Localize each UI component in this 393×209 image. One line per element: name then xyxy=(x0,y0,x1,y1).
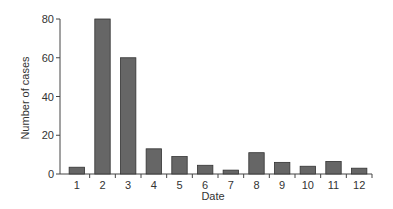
x-tick-label: 3 xyxy=(125,179,131,191)
bar xyxy=(300,166,315,174)
bar xyxy=(197,165,212,174)
x-tick-label: 8 xyxy=(253,179,259,191)
y-tick-label: 20 xyxy=(42,129,54,141)
bar xyxy=(223,170,238,174)
bar xyxy=(172,157,187,174)
bar xyxy=(249,153,264,174)
x-tick-label: 12 xyxy=(353,179,365,191)
y-axis-label: Number of cases xyxy=(19,56,31,140)
y-tick-label: 0 xyxy=(48,168,54,180)
bar xyxy=(351,168,366,174)
bar xyxy=(274,162,289,174)
x-tick-label: 10 xyxy=(302,179,314,191)
bar xyxy=(120,58,135,174)
x-tick-label: 1 xyxy=(74,179,80,191)
x-tick-label: 7 xyxy=(228,179,234,191)
bar xyxy=(69,167,84,174)
y-tick-label: 80 xyxy=(42,13,54,25)
bar xyxy=(146,149,161,174)
x-tick-label: 2 xyxy=(99,179,105,191)
y-tick-label: 40 xyxy=(42,91,54,103)
x-tick-label: 11 xyxy=(328,179,339,191)
x-tick-label: 9 xyxy=(279,179,285,191)
y-tick-label: 60 xyxy=(42,52,54,64)
plot-area: 020406080123456789101112 xyxy=(42,13,372,191)
bar xyxy=(326,161,341,174)
x-tick-label: 5 xyxy=(176,179,182,191)
bar-chart: 020406080123456789101112 Number of cases… xyxy=(0,0,393,209)
bar xyxy=(95,19,110,174)
x-tick-label: 4 xyxy=(151,179,157,191)
x-axis-label: Date xyxy=(201,190,224,202)
